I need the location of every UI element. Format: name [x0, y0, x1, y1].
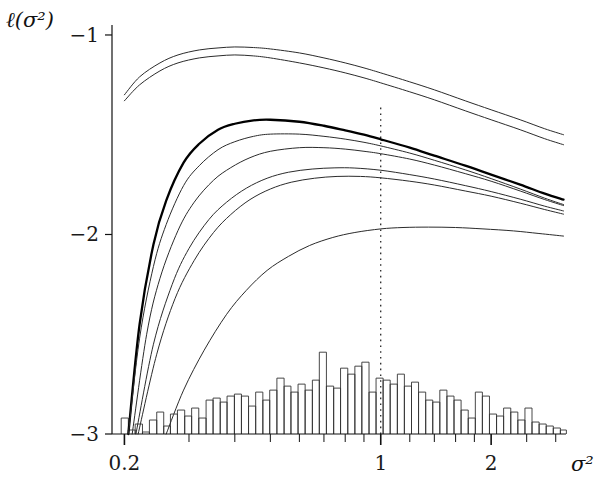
x-tick-label: 1 — [374, 451, 387, 475]
figure-root: −1−2−30.212 ℓ(σ²) σ² — [0, 0, 611, 488]
x-axis-title: σ² — [571, 452, 594, 476]
y-tick-label: −2 — [70, 222, 99, 246]
x-tick-label: 2 — [485, 451, 498, 475]
line-chart-with-histogram: −1−2−30.212 — [0, 0, 611, 488]
y-tick-label: −1 — [70, 23, 99, 47]
y-axis-title-text: ℓ(σ²) — [6, 8, 54, 32]
x-tick-label: 0.2 — [109, 451, 141, 475]
y-axis-title: ℓ(σ²) — [6, 8, 54, 33]
x-axis-title-text: σ² — [571, 452, 594, 476]
y-tick-label: −3 — [70, 422, 99, 446]
